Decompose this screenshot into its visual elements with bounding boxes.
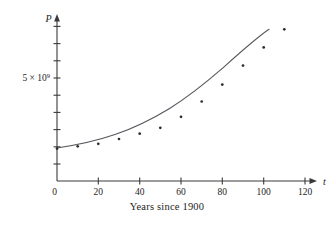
x-tick-label: 40: [135, 187, 145, 197]
exponential-fit-curve: [57, 29, 269, 148]
y-axis-arrow-icon: [54, 14, 60, 22]
x-tick-label: 80: [218, 187, 228, 197]
x-axis-name: t: [323, 176, 326, 187]
data-point: [242, 64, 245, 67]
data-point: [97, 142, 100, 145]
data-point: [159, 126, 162, 129]
y-label-exponent: 9: [47, 72, 50, 79]
x-axis-arrow-icon: [310, 178, 318, 184]
x-tick-label: 100: [257, 187, 272, 197]
data-point: [56, 147, 59, 150]
x-tick-label: 0: [52, 187, 57, 197]
x-tick-label: 20: [94, 187, 104, 197]
plot-area: P t 5 × 109 0 20 40 60 80 100 120: [0, 0, 334, 226]
population-growth-figure: P t 5 × 109 0 20 40 60 80 100 120 Years …: [0, 0, 334, 226]
data-point: [262, 46, 265, 49]
data-point: [221, 83, 224, 86]
x-tick-label: 60: [176, 187, 186, 197]
figure-caption: Years since 1900: [0, 201, 334, 212]
y-axis-tick-label: 5 × 109: [22, 72, 50, 84]
data-point: [138, 132, 141, 135]
data-point: [180, 115, 183, 118]
data-point: [200, 100, 203, 103]
data-point: [283, 28, 286, 31]
data-point: [118, 138, 121, 141]
y-axis-name: P: [45, 13, 52, 24]
data-point: [76, 145, 79, 148]
x-tick-label: 120: [298, 187, 313, 197]
y-label-mantissa: 5 × 10: [22, 73, 47, 83]
